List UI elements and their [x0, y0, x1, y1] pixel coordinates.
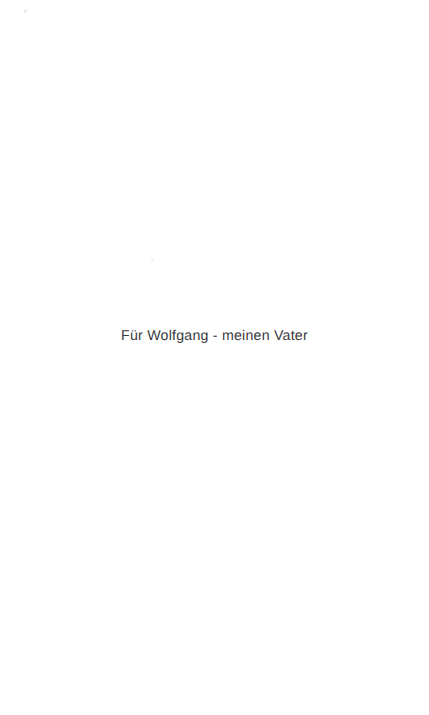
dedication-text: Für Wolfgang - meinen Vater — [121, 328, 308, 345]
scan-speck-icon — [24, 9, 27, 13]
book-page: Für Wolfgang - meinen Vater — [0, 0, 429, 715]
scan-speck-icon — [287, 263, 289, 265]
dedication-block: Für Wolfgang - meinen Vater — [0, 314, 429, 359]
scan-speck-icon — [151, 258, 154, 261]
